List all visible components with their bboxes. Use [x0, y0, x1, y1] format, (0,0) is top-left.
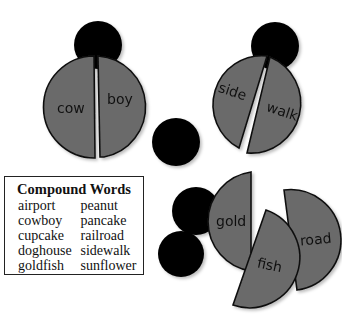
- loose-pieces: gold road fish: [208, 172, 341, 308]
- word-list-item: cupcake: [18, 228, 81, 243]
- word-list-item: sunflower: [81, 258, 144, 273]
- word-list-item: goldfish: [18, 258, 81, 273]
- word-list-item: pancake: [81, 213, 144, 228]
- word-list-item: doghouse: [18, 243, 81, 258]
- loose-head[interactable]: [158, 231, 204, 277]
- piece-word-road: road: [299, 230, 332, 249]
- word-column: peanut pancake railroad sidewalk sunflow…: [81, 198, 144, 273]
- piece-word-gold: gold: [216, 213, 246, 229]
- piece-word-cow: cow: [57, 100, 85, 116]
- word-column: airport cowboy cupcake doghouse goldfish: [18, 198, 81, 273]
- loose-head[interactable]: [152, 118, 200, 166]
- compound-words-box: Compound Words airport cowboy cupcake do…: [4, 176, 144, 275]
- word-list-item: peanut: [81, 198, 144, 213]
- ladybug-cowboy: cow boy: [43, 21, 145, 158]
- word-list-item: airport: [18, 198, 81, 213]
- word-box-title: Compound Words: [5, 181, 143, 197]
- word-list-item: cowboy: [18, 213, 81, 228]
- ladybug-sidewalk: side walk: [213, 22, 301, 153]
- word-list-item: railroad: [81, 228, 144, 243]
- word-list-item: sidewalk: [81, 243, 144, 258]
- piece-word-boy: boy: [107, 91, 133, 107]
